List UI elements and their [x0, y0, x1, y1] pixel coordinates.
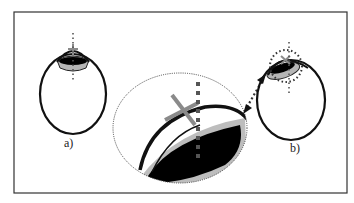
magnified-view	[113, 73, 248, 186]
panel-a-label: a)	[64, 136, 73, 151]
eye-a-diagram	[40, 33, 106, 134]
eye-b-diagram	[257, 42, 325, 140]
panel-b-label: b)	[290, 141, 300, 156]
figure-canvas	[0, 0, 354, 203]
